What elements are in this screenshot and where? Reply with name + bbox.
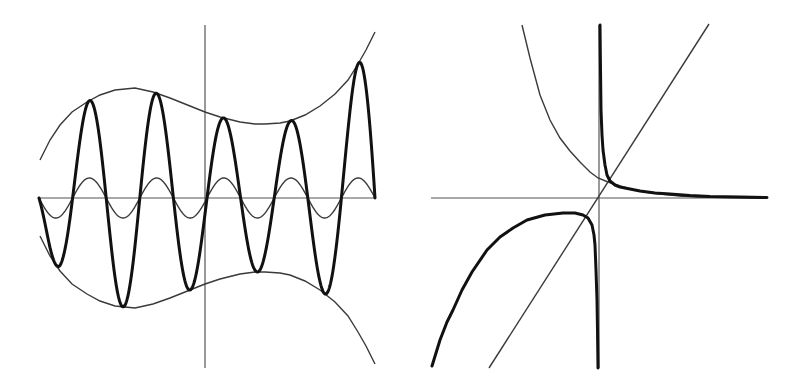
left-envelope-bottom-curve — [40, 236, 375, 364]
left-modulated-sine-curve — [39, 62, 375, 306]
left-envelope-top-curve — [40, 32, 375, 160]
figure — [0, 0, 794, 386]
plot-canvas — [0, 0, 794, 386]
right-decay-curve — [522, 25, 767, 198]
right-asymptote-curve-positive-branch — [600, 25, 767, 198]
left-plot — [39, 25, 375, 368]
right-plot — [431, 24, 767, 368]
